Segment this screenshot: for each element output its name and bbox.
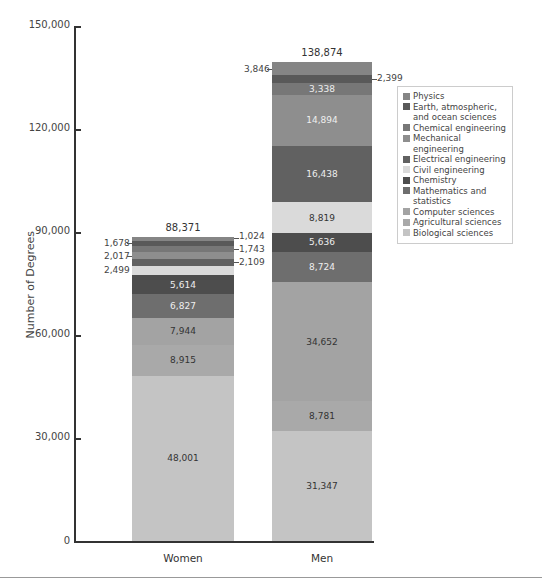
bottom-rule — [0, 577, 542, 578]
leader-line — [267, 69, 272, 70]
legend-swatch — [403, 219, 410, 226]
legend-label: Mechanical engineering — [413, 133, 509, 154]
legend-swatch — [403, 208, 410, 215]
legend-item-electrical-engineering: Electrical engineering — [403, 154, 509, 165]
segment-mechanical-engineering — [132, 252, 234, 259]
segment-biological-sciences: 31,347 — [272, 431, 372, 541]
women-label-physics: 1,024 — [239, 231, 265, 241]
legend-item-civil-engineering: Civil engineering — [403, 165, 509, 176]
segment-civil-engineering — [132, 266, 234, 275]
legend-swatch — [403, 229, 410, 236]
segment-earth-sciences — [272, 75, 372, 83]
y-axis-line — [74, 26, 76, 542]
legend-swatch — [403, 166, 410, 173]
women-label-chem-eng: 1,743 — [239, 244, 265, 254]
legend: Physics Earth, atmospheric, and ocean sc… — [397, 86, 513, 244]
legend-label: Chemistry — [413, 175, 456, 186]
y-tick-label: 90,000 — [35, 225, 70, 236]
legend-item-chemical-engineering: Chemical engineering — [403, 123, 509, 134]
y-tick-label: 0 — [64, 535, 70, 546]
segment-agricultural-sciences: 8,781 — [272, 401, 372, 431]
legend-swatch — [403, 187, 410, 194]
y-tick-label: 60,000 — [35, 328, 70, 339]
y-axis-label: Number of Degrees — [24, 239, 37, 339]
segment-electrical-engineering: 16,438 — [272, 146, 372, 202]
x-label-women: Women — [133, 552, 233, 564]
women-label-mech: 2,017 — [104, 251, 130, 261]
x-label-men: Men — [272, 552, 372, 564]
legend-label: Physics — [413, 91, 444, 102]
women-label-earth: 1,678 — [104, 238, 130, 248]
men-total-label: 138,874 — [272, 47, 372, 58]
y-tick-label: 150,000 — [29, 19, 70, 30]
y-tick — [75, 335, 81, 337]
y-tick — [75, 232, 81, 234]
legend-item-agricultural-sciences: Agricultural sciences — [403, 217, 509, 228]
legend-swatch — [403, 135, 410, 142]
y-tick-label: 120,000 — [29, 122, 70, 133]
bar-women: 5,614 6,827 7,944 8,915 48,001 — [132, 237, 234, 541]
women-label-civil: 2,499 — [104, 265, 130, 275]
segment-electrical-engineering — [132, 259, 234, 266]
legend-item-chemistry: Chemistry — [403, 175, 509, 186]
legend-label: Agricultural sciences — [413, 217, 501, 228]
segment-chemistry: 5,614 — [132, 275, 234, 294]
segment-mathematics: 8,724 — [272, 252, 372, 282]
y-tick — [75, 129, 81, 131]
segment-agricultural-sciences: 8,915 — [132, 345, 234, 376]
legend-item-mathematics: Mathematics and statistics — [403, 186, 509, 207]
segment-chemistry: 5,636 — [272, 233, 372, 252]
legend-label: Biological sciences — [413, 228, 493, 239]
y-tick — [75, 26, 81, 28]
legend-swatch — [403, 103, 410, 110]
segment-mathematics: 6,827 — [132, 294, 234, 317]
legend-label: Electrical engineering — [413, 154, 506, 165]
legend-label: Computer sciences — [413, 207, 494, 218]
legend-swatch — [403, 177, 410, 184]
legend-item-biological-sciences: Biological sciences — [403, 228, 509, 239]
legend-label: Chemical engineering — [413, 123, 506, 134]
segment-computer-sciences: 7,944 — [132, 318, 234, 345]
legend-label: Mathematics and statistics — [413, 186, 509, 207]
leader-line — [127, 256, 132, 257]
segment-mechanical-engineering: 14,894 — [272, 95, 372, 146]
legend-label: Earth, atmospheric, and ocean sciences — [413, 102, 509, 123]
legend-swatch — [403, 124, 410, 131]
legend-swatch — [403, 93, 410, 100]
women-label-elec-eng: 2,109 — [239, 257, 265, 267]
segment-civil-engineering: 8,819 — [272, 202, 372, 232]
legend-label: Civil engineering — [413, 165, 485, 176]
segment-chemical-engineering: 3,338 — [272, 83, 372, 95]
men-label-earth: 2,399 — [377, 73, 403, 83]
legend-item-mechanical-engineering: Mechanical engineering — [403, 133, 509, 154]
segment-biological-sciences: 48,001 — [132, 376, 234, 541]
men-label-physics: 3,846 — [244, 64, 270, 74]
legend-item-computer-sciences: Computer sciences — [403, 207, 509, 218]
segment-computer-sciences: 34,652 — [272, 282, 372, 401]
y-tick-label: 30,000 — [35, 431, 70, 442]
legend-item-physics: Physics — [403, 91, 509, 102]
x-axis-line — [74, 541, 374, 543]
leader-line — [127, 243, 132, 244]
y-tick — [75, 438, 81, 440]
women-total-label: 88,371 — [133, 222, 233, 233]
segment-physics — [272, 62, 372, 75]
legend-item-earth-sciences: Earth, atmospheric, and ocean sciences — [403, 102, 509, 123]
bar-men: 3,338 14,894 16,438 8,819 5,636 8,724 34… — [272, 62, 372, 541]
legend-swatch — [403, 156, 410, 163]
